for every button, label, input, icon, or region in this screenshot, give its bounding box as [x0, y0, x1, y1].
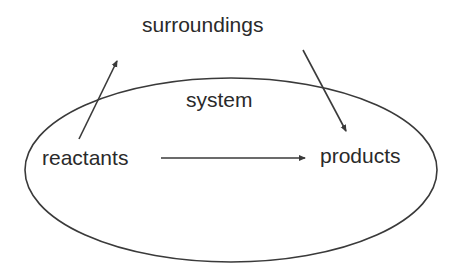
- system-label: system: [186, 89, 253, 110]
- products-label: products: [320, 145, 401, 166]
- arrow-surroundings-to-products: [303, 50, 346, 131]
- reactants-label: reactants: [42, 147, 128, 168]
- surroundings-label: surroundings: [142, 14, 263, 35]
- arrow-reactants-to-surroundings: [79, 61, 117, 139]
- diagram-canvas: [0, 0, 455, 273]
